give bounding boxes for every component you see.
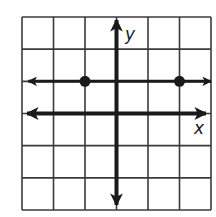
x-axis-label: x [193, 118, 205, 138]
y-axis-label: y [124, 24, 136, 44]
coordinate-graph: y x [0, 0, 216, 217]
data-point [174, 76, 185, 87]
data-point [80, 76, 91, 87]
